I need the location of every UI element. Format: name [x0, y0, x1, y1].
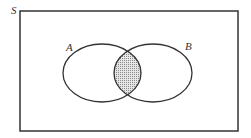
set-b-label: B: [185, 40, 192, 52]
set-a-label: A: [65, 41, 73, 53]
venn-diagram: S A B: [0, 0, 251, 138]
universe-label: S: [11, 4, 17, 16]
